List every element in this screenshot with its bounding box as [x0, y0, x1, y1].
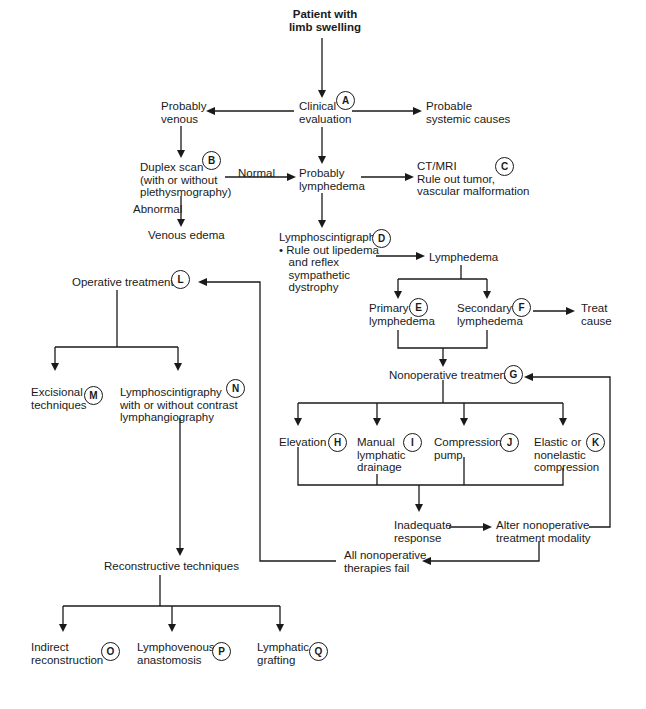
step-badge-h: H — [328, 433, 347, 452]
step-badge-l: L — [171, 270, 190, 289]
node-treat-cause: Treatcause — [581, 302, 612, 327]
node-text-line: Excisional — [31, 386, 87, 399]
node-text-line: lymphatic — [357, 449, 406, 462]
node-text-line: Manual — [357, 436, 406, 449]
node-q: Lymphaticgrafting — [257, 641, 309, 666]
node-text-line: Lymphedema — [429, 251, 498, 264]
node-text-line: limb swelling — [289, 21, 361, 34]
node-text-line: Lymphoscintigraphy — [279, 231, 381, 244]
node-text-line: lymphedema — [457, 315, 523, 328]
node-text-line: Lymphoscintigraphy — [120, 386, 238, 399]
node-text-line: anastomosis — [137, 654, 215, 667]
step-badge-d: D — [372, 229, 391, 248]
node-j: Compressionpump — [434, 436, 502, 461]
step-badge-f: F — [512, 298, 531, 317]
node-text-line: with or without contrast — [120, 399, 238, 412]
node-text-line: Inadequate — [394, 519, 452, 532]
node-text-line: therapies fail — [344, 562, 426, 575]
node-text-line: Nonoperative treatment — [389, 369, 509, 382]
node-text-line: and reflex — [279, 256, 381, 269]
node-lymph-prob: Probablylymphedema — [299, 167, 365, 192]
node-lymphedema: Lymphedema — [429, 251, 498, 264]
edge-label-normal: Normal — [238, 167, 275, 180]
lymphedema-flowchart: Patient withlimb swellingClinicalevaluat… — [0, 0, 646, 709]
step-badge-k: K — [586, 433, 605, 452]
edge-label-abnormal: Abnormal — [133, 203, 182, 216]
node-text-line: evaluation — [299, 113, 351, 126]
node-text-line: Alter nonoperative — [496, 519, 591, 532]
node-d: Lymphoscintigraphy• Rule out lipedema an… — [279, 231, 381, 294]
node-text-line: vascular malformation — [417, 185, 529, 198]
step-badge-c: C — [495, 157, 514, 176]
node-text-line: drainage — [357, 461, 406, 474]
node-text-line: plethysmography) — [140, 186, 231, 199]
node-text-line: treatment modality — [496, 532, 591, 545]
node-all-fail: All nonoperativetherapies fail — [344, 549, 426, 574]
node-text-line: Venous edema — [148, 229, 225, 242]
node-recon: Reconstructive techniques — [104, 560, 239, 573]
node-text-line: venous — [161, 113, 206, 126]
step-badge-p: P — [212, 642, 231, 661]
step-badge-g: G — [504, 365, 523, 384]
node-text-line: Lymphovenous — [137, 641, 215, 654]
node-i: Manuallymphaticdrainage — [357, 436, 406, 474]
node-text-line: reconstruction — [31, 654, 103, 667]
node-alter: Alter nonoperativetreatment modality — [496, 519, 591, 544]
node-text-line: lymphedema — [369, 315, 435, 328]
node-text-line: lymphangiography — [120, 411, 238, 424]
node-text-line: response — [394, 532, 452, 545]
node-text-line: Probably — [299, 167, 365, 180]
step-badge-n: N — [226, 379, 245, 398]
node-venous: Probablyvenous — [161, 100, 206, 125]
node-text-line: Compression — [434, 436, 502, 449]
node-systemic: Probablesystemic causes — [426, 100, 510, 125]
node-text-line: techniques — [31, 399, 87, 412]
node-text-line: • Rule out lipedema — [279, 244, 381, 257]
step-badge-a: A — [336, 91, 355, 110]
node-text-line: sympathetic — [279, 269, 381, 282]
node-g: Nonoperative treatment — [389, 369, 509, 382]
node-text-line: Reconstructive techniques — [104, 560, 239, 573]
step-badge-j: J — [500, 433, 519, 452]
node-m: Excisionaltechniques — [31, 386, 87, 411]
node-text-line: Probably — [161, 100, 206, 113]
node-o: Indirectreconstruction — [31, 641, 103, 666]
step-badge-i: I — [403, 433, 422, 452]
node-inadequate: Inadequateresponse — [394, 519, 452, 544]
node-text-line: Probable — [426, 100, 510, 113]
node-n: Lymphoscintigraphywith or without contra… — [120, 386, 238, 424]
node-text-line: lymphedema — [299, 180, 365, 193]
node-text-line: dystrophy — [279, 281, 381, 294]
node-text-line: systemic causes — [426, 113, 510, 126]
node-venous-edema: Venous edema — [148, 229, 225, 242]
step-badge-q: Q — [309, 642, 328, 661]
node-text-line: All nonoperative — [344, 549, 426, 562]
node-text-line: grafting — [257, 654, 309, 667]
node-text-line: Rule out tumor, — [417, 173, 529, 186]
node-start: Patient withlimb swelling — [289, 8, 361, 33]
step-badge-b: B — [202, 151, 221, 170]
node-text-line: Operative treatment — [72, 276, 174, 289]
node-text-line: Patient with — [289, 8, 361, 21]
node-p: Lymphovenousanastomosis — [137, 641, 215, 666]
node-text-line: pump — [434, 449, 502, 462]
node-text-line: (with or without — [140, 174, 231, 187]
node-text-line: compression — [534, 461, 599, 474]
node-text-line: Lymphatic — [257, 641, 309, 654]
node-text-line: Elevation — [279, 436, 326, 449]
step-badge-e: E — [409, 298, 428, 317]
node-text-line: Indirect — [31, 641, 103, 654]
node-h: Elevation — [279, 436, 326, 449]
node-text-line: Treat — [581, 302, 612, 315]
step-badge-m: M — [84, 386, 103, 405]
step-badge-o: O — [101, 642, 120, 661]
node-text-line: cause — [581, 315, 612, 328]
node-l: Operative treatment — [72, 276, 174, 289]
